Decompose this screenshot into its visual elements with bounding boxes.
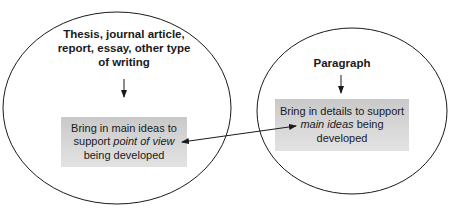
title-line: report, essay, other type [40, 41, 208, 55]
left-box: Bring in main ideas to support point of … [61, 117, 187, 167]
emphasis-text: point of view [113, 135, 174, 147]
right-box: Bring in details to support main ideas b… [275, 99, 409, 151]
left-box-line3: being developed [71, 149, 177, 163]
right-box-line3: developed [280, 132, 404, 146]
emphasis-text: main ideas [300, 118, 353, 130]
left-circle-title: Thesis, journal article, report, essay, … [40, 27, 208, 69]
right-box-line1: Bring in details to support [280, 105, 404, 119]
title-line: of writing [40, 55, 208, 69]
left-box-line2: support point of view [71, 135, 177, 149]
title-line: Thesis, journal article, [40, 27, 208, 41]
right-box-line2: main ideas being [280, 118, 404, 132]
left-box-line1: Bring in main ideas to [71, 122, 177, 136]
text: being [354, 118, 384, 130]
text: support [74, 135, 114, 147]
right-circle-title: Paragraph [300, 56, 384, 70]
